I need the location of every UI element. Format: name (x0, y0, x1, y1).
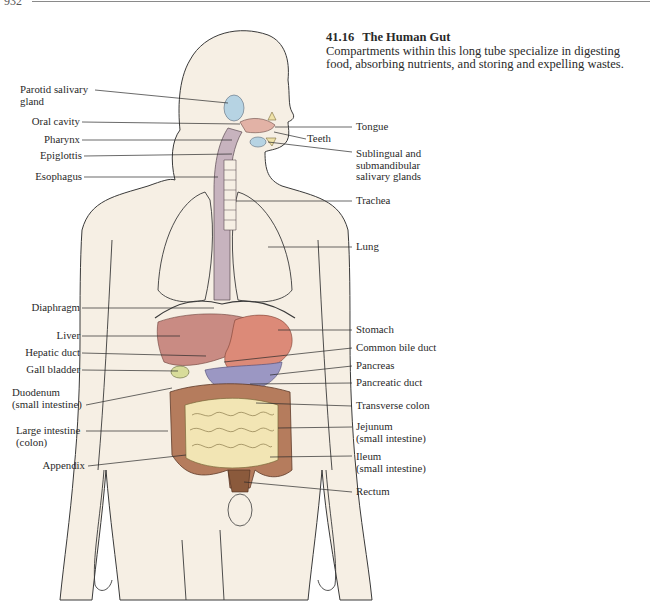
label-epiglottis: Epiglottis (40, 150, 82, 162)
label-large-intestine: Large intestine(colon) (16, 425, 80, 448)
label-line: Sublingual and (356, 147, 421, 159)
label-trachea: Trachea (356, 195, 390, 207)
label-gall-bladder: Gall bladder (26, 364, 80, 376)
label-jejunum: Jejunum(small intestine) (356, 421, 426, 444)
label-pancreatic-duct: Pancreatic duct (356, 377, 422, 389)
label-duodenum: Duodenum(small intestine) (12, 387, 82, 410)
label-line: (colon) (16, 436, 47, 448)
label-pharynx: Pharynx (44, 134, 80, 146)
label-line: gland (20, 95, 44, 107)
label-common-bile-duct: Common bile duct (356, 342, 436, 354)
human-gut-illustration (0, 0, 650, 610)
rectum (228, 470, 252, 526)
label-hepatic-duct: Hepatic duct (25, 347, 80, 359)
label-line: Jejunum (356, 420, 393, 432)
label-line: Duodenum (12, 386, 60, 398)
label-transverse-colon: Transverse colon (356, 400, 430, 412)
label-ileum: Ileum(small intestine) (356, 451, 426, 474)
label-esophagus: Esophagus (35, 171, 82, 183)
label-tongue: Tongue (356, 121, 388, 133)
label-parotid-salivary-gland: Parotid salivarygland (20, 84, 96, 107)
label-line: Ileum (356, 450, 381, 462)
label-diaphragm: Diaphragm (31, 302, 80, 314)
label-sublingual-glands: Sublingual andsubmandibularsalivary glan… (356, 148, 421, 183)
label-appendix: Appendix (42, 460, 85, 472)
small-intestine (185, 398, 278, 468)
label-line: submandibular (356, 159, 420, 171)
label-pancreas: Pancreas (356, 360, 394, 372)
label-teeth: Teeth (307, 133, 331, 145)
label-line: (small intestine) (356, 432, 426, 444)
label-line: Large intestine (16, 424, 80, 436)
label-line: salivary glands (356, 170, 421, 182)
label-lung: Lung (356, 241, 379, 253)
gall-bladder (171, 366, 189, 378)
label-stomach: Stomach (356, 324, 394, 336)
label-line: (small intestine) (12, 398, 82, 410)
label-liver: Liver (57, 330, 80, 342)
label-line: Parotid salivary (20, 83, 88, 95)
label-rectum: Rectum (356, 486, 390, 498)
label-line: (small intestine) (356, 462, 426, 474)
label-oral-cavity: Oral cavity (32, 116, 80, 128)
